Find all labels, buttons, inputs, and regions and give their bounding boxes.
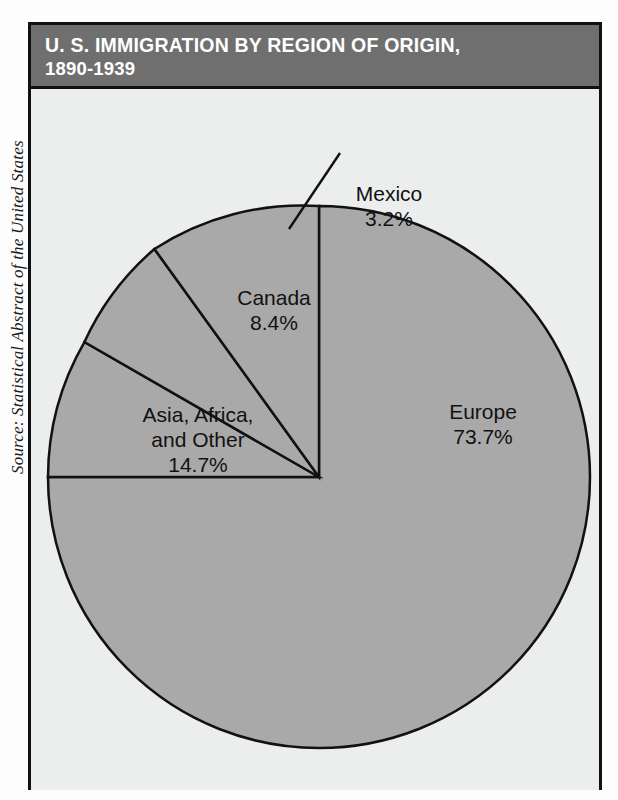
pie-label-asia-africa-other: Asia, Africa, and Other 14.7% xyxy=(93,402,303,477)
figure-frame: U. S. IMMIGRATION BY REGION OF ORIGIN, 1… xyxy=(28,22,602,790)
page-background: Source: Statistical Abstract of the Unit… xyxy=(0,0,618,800)
figure-title-line-2: 1890-1939 xyxy=(45,57,599,81)
pie-label-europe: Europe 73.7% xyxy=(403,399,563,449)
pie-label-canada-name: Canada xyxy=(237,286,311,309)
pie-label-canada-pct: 8.4% xyxy=(199,310,349,335)
pie-label-asia-name-line-2: and Other xyxy=(93,427,303,452)
pie-label-europe-pct: 73.7% xyxy=(403,424,563,449)
figure-title-bar: U. S. IMMIGRATION BY REGION OF ORIGIN, 1… xyxy=(31,25,599,89)
pie-label-mexico: Mexico 3.2% xyxy=(319,181,459,231)
pie-label-canada: Canada 8.4% xyxy=(199,285,349,335)
pie-label-mexico-name: Mexico xyxy=(356,182,423,205)
pie-label-asia-name-line-1: Asia, Africa, xyxy=(143,403,254,426)
pie-label-mexico-pct: 3.2% xyxy=(319,206,459,231)
figure-title-line-1: U. S. IMMIGRATION BY REGION OF ORIGIN, xyxy=(45,33,599,57)
pie-label-europe-name: Europe xyxy=(449,400,517,423)
pie-label-asia-pct: 14.7% xyxy=(93,452,303,477)
source-credit: Source: Statistical Abstract of the Unit… xyxy=(7,4,29,474)
pie-chart-area: Mexico 3.2% Canada 8.4% Asia, Africa, an… xyxy=(31,89,599,790)
